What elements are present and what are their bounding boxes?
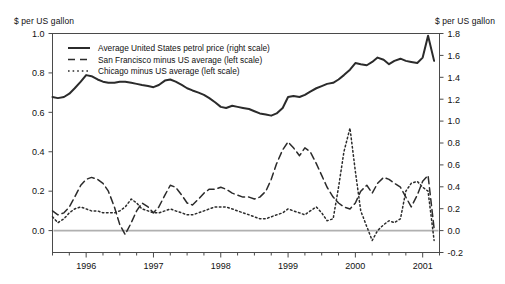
left-tick-label: 0.2 — [32, 186, 45, 196]
x-tick-label: 1996 — [76, 261, 96, 271]
right-tick-label: 0.0 — [448, 226, 461, 236]
right-tick-label: -0.2 — [448, 248, 464, 258]
series-line-1 — [53, 142, 435, 235]
right-tick-label: 0.2 — [448, 204, 461, 214]
left-tick-label: 0.4 — [32, 147, 45, 157]
right-tick-label: 1.0 — [448, 116, 461, 126]
legend: Average United States petrol price (righ… — [68, 43, 270, 76]
left-tick-label: 1.0 — [32, 29, 45, 39]
right-tick-label: 1.6 — [448, 51, 461, 61]
right-tick-label: 1.2 — [448, 95, 461, 105]
x-tick-label: 1997 — [143, 261, 163, 271]
right-tick-label: 1.8 — [448, 29, 461, 39]
x-tick-label: 2000 — [345, 261, 365, 271]
left-axis-title: $ per US gallon — [14, 16, 74, 26]
right-tick-label: 1.4 — [448, 73, 461, 83]
right-tick-label: 0.8 — [448, 138, 461, 148]
legend-label-0: Average United States petrol price (righ… — [98, 43, 270, 53]
x-axis-tick-group: 199619971998199920002001 — [53, 253, 440, 271]
left-axis-tick-group: 1.00.80.60.40.20.0 — [32, 29, 53, 236]
figure-root: $ per US gallon $ per US gallon 1.00.80.… — [0, 0, 505, 284]
left-tick-label: 0.6 — [32, 108, 45, 118]
left-tick-label: 0.8 — [32, 68, 45, 78]
x-tick-label: 1999 — [278, 261, 298, 271]
chart-canvas: 1.00.80.60.40.20.0 1.81.61.41.21.00.80.6… — [0, 0, 505, 284]
legend-label-2: Chicago minus US average (left scale) — [98, 66, 240, 76]
right-axis-tick-group: 1.81.61.41.21.00.80.60.40.20.0-0.2 — [440, 29, 464, 258]
legend-label-1: San Francisco minus US average (left sca… — [98, 55, 262, 65]
right-axis-title: $ per US gallon — [435, 16, 495, 26]
x-tick-label: 2001 — [413, 261, 433, 271]
left-tick-label: 0.0 — [32, 226, 45, 236]
x-tick-label: 1998 — [211, 261, 231, 271]
series-line-2 — [53, 128, 435, 240]
right-tick-label: 0.6 — [448, 160, 461, 170]
right-tick-label: 0.4 — [448, 182, 461, 192]
